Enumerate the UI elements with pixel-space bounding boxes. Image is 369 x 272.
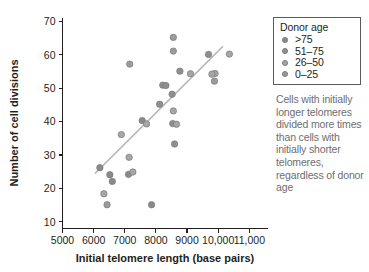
x-axis-title: Initial telomere length (base pairs)	[76, 252, 255, 264]
y-tick-label: 30	[44, 149, 56, 161]
legend-item-label: 26–50	[295, 57, 324, 69]
data-points	[97, 34, 233, 208]
data-point	[187, 71, 193, 77]
trend-line	[96, 47, 223, 173]
legend-dot-icon	[282, 48, 288, 54]
data-point	[205, 51, 211, 57]
y-tick-label: 60	[44, 49, 56, 61]
telomere-scatter-figure: 10203040506070 5000600070008000900010,00…	[0, 0, 369, 272]
data-point	[104, 202, 110, 208]
data-point	[127, 61, 133, 67]
data-point	[171, 141, 177, 147]
x-axis-ticks: 5000600070008000900010,00011,000	[51, 229, 265, 246]
legend-item-label: >75	[295, 34, 313, 46]
data-point	[209, 71, 215, 77]
legend-dot-icon	[282, 71, 288, 77]
x-tick-label: 6000	[82, 234, 106, 246]
data-point	[97, 164, 103, 170]
data-point	[156, 101, 162, 107]
data-point	[177, 68, 183, 74]
x-tick-label: 9000	[175, 234, 199, 246]
y-tick-label: 40	[44, 115, 56, 127]
legend: Donor age >7551–7526–500–25	[273, 17, 361, 85]
x-tick-label: 5000	[51, 234, 75, 246]
data-point	[130, 169, 136, 175]
x-tick-label: 11,000	[234, 234, 265, 246]
data-point	[148, 202, 154, 208]
legend-item-label: 0–25	[295, 69, 318, 81]
annotation-text: Cells with initially longer telomeres di…	[276, 93, 368, 194]
x-tick-label: 7000	[113, 234, 137, 246]
data-point	[170, 34, 176, 40]
axis-lines	[63, 18, 269, 229]
data-point	[170, 48, 176, 54]
legend-item: 26–50	[282, 57, 360, 69]
y-tick-label: 20	[44, 182, 56, 194]
legend-items: >7551–7526–500–25	[274, 34, 360, 80]
x-tick-label: 10,000	[202, 234, 234, 246]
data-point	[169, 91, 175, 97]
legend-item: 0–25	[282, 69, 360, 81]
y-tick-label: 50	[44, 82, 56, 94]
legend-item: >75	[282, 34, 360, 46]
legend-title: Donor age	[280, 21, 360, 33]
data-point	[211, 78, 217, 84]
data-point	[163, 82, 169, 88]
y-tick-label: 70	[44, 15, 56, 27]
data-point	[101, 191, 107, 197]
data-point	[126, 154, 132, 160]
data-point	[173, 121, 179, 127]
y-tick-label: 10	[44, 216, 56, 228]
legend-dot-icon	[282, 37, 288, 43]
data-point	[170, 108, 176, 114]
plot-axes	[63, 18, 269, 229]
trend-line-segment	[96, 47, 223, 173]
y-axis-ticks: 10203040506070	[44, 15, 63, 227]
x-tick-label: 8000	[144, 234, 168, 246]
data-point	[143, 121, 149, 127]
data-point	[226, 51, 232, 57]
y-axis-title: Number of cell divisions	[8, 59, 20, 186]
data-point	[109, 178, 115, 184]
data-point	[107, 172, 113, 178]
data-point	[118, 131, 124, 137]
legend-dot-icon	[282, 60, 288, 66]
